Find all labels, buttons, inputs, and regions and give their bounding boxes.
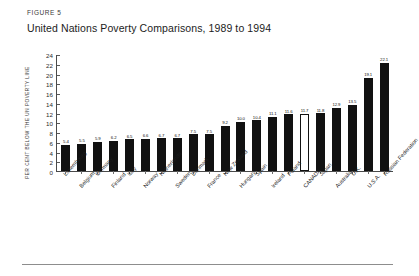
x-axis-label: U.S.A. [366,173,381,189]
y-tick-label: 18 [37,81,53,88]
y-tick-label: 20 [37,71,53,78]
figure-title: United Nations Poverty Comparisons, 1989… [27,22,271,34]
bar-value-label: 6.6 [143,133,149,138]
bar-slot[interactable]: 11.7 [297,55,313,171]
bar-slot[interactable]: 9.2 [217,55,233,171]
bar-value-label: 6.7 [159,133,165,138]
bar-slot[interactable]: 6.2 [106,55,122,171]
bar[interactable] [109,141,118,171]
bar-value-label: 7.5 [190,129,196,134]
bar-value-label: 5.9 [95,136,101,141]
bar-slot[interactable]: 12.9 [328,55,344,171]
bar-value-label: 11.8 [317,108,325,113]
bar-value-label: 7.5 [206,129,212,134]
bar-slot[interactable]: 7.5 [185,55,201,171]
bar[interactable] [205,134,214,171]
bar-slot[interactable]: 13.5 [344,55,360,171]
y-tick-label: 8 [37,130,53,137]
bar-value-label: 6.7 [174,133,180,138]
bar-value-label: 5.5 [79,138,85,143]
bar-slot[interactable]: 6.6 [138,55,154,171]
bar-value-label: 13.5 [348,99,356,104]
bar[interactable] [348,105,357,171]
bar-value-label: 11.1 [269,111,277,116]
bar[interactable] [380,63,389,171]
bar[interactable] [268,117,277,171]
y-tick-label: 4 [37,149,53,156]
bar-slot[interactable]: 11.1 [265,55,281,171]
bar-series: 5.45.55.96.26.56.66.76.77.57.59.210.010.… [58,55,392,171]
bar[interactable] [316,113,325,171]
bar[interactable] [284,114,293,171]
x-axis-label: Finland [110,171,127,189]
bar-value-label: 6.5 [127,134,133,139]
y-tick-label: 2 [37,159,53,166]
x-axis-label: Ireland [270,172,286,189]
bar[interactable] [364,78,373,171]
plot-area: 024681012141618202224 5.45.55.96.26.56.6… [56,55,392,172]
bar-value-label: 6.2 [111,135,117,140]
y-tick-label: 10 [37,120,53,127]
x-axis-labels: LuxembourgBelgiumGermanyFinlandItalyNorw… [58,173,394,251]
y-tick-label: 14 [37,100,53,107]
bar-slot[interactable]: 11.6 [281,55,297,171]
bar-slot[interactable]: 6.5 [122,55,138,171]
bar-value-label: 12.9 [332,102,340,107]
bar-slot[interactable]: 5.9 [90,55,106,171]
bar-value-label: 19.1 [364,72,372,77]
y-tick-label: 22 [37,61,53,68]
bar-slot[interactable]: 22.1 [376,55,392,171]
bar-slot[interactable]: 6.7 [153,55,169,171]
bar-value-label: 10.4 [253,115,261,120]
bar-slot[interactable]: 19.1 [360,55,376,171]
bar-value-label: 9.2 [222,120,228,125]
bar[interactable] [332,108,341,171]
bar-value-label: 22.1 [380,57,388,62]
bar-slot[interactable]: 11.8 [313,55,329,171]
y-tick-label: 6 [37,139,53,146]
bar-value-label: 5.4 [63,139,69,144]
y-tick-label: 0 [37,169,53,176]
x-axis-label: France [206,172,222,189]
y-tick-label: 16 [37,91,53,98]
y-axis-title: PER CENT BELOW THE UN POVERTY LINE [25,53,30,193]
y-tick-label: 12 [37,110,53,117]
bar-slot[interactable]: 10.4 [249,55,265,171]
bar[interactable] [252,120,261,171]
bar-value-label: 11.6 [285,109,293,114]
figure-number: FIGURE 5 [27,9,61,16]
x-axis-label: Norway [142,171,159,189]
bar[interactable] [141,139,150,171]
y-tick-label: 24 [37,52,53,59]
bar-slot[interactable]: 7.5 [201,55,217,171]
bar-value-label: 10.0 [237,116,245,121]
bar-slot[interactable]: 5.4 [58,55,74,171]
bar-value-label: 11.7 [301,108,309,113]
footer-rule [22,264,393,265]
